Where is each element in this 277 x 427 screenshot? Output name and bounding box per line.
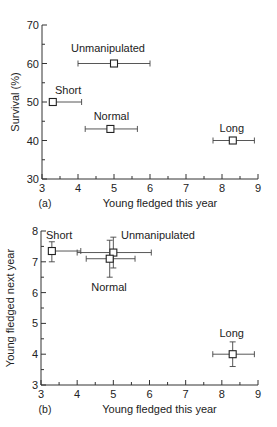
y-axis-title: Survival (%) bbox=[9, 72, 21, 131]
x-tick-label: 4 bbox=[74, 388, 80, 400]
y-tick-label: 3 bbox=[32, 379, 38, 391]
x-tick-label: 5 bbox=[110, 388, 116, 400]
square-marker-icon bbox=[49, 99, 56, 106]
y-tick-label: 8 bbox=[32, 225, 38, 237]
y-tick-label: 60 bbox=[27, 58, 39, 70]
chart-survival: 34567893040506070Young fledged this year… bbox=[0, 0, 277, 210]
x-tick-label: 3 bbox=[38, 388, 44, 400]
x-tick-label: 6 bbox=[146, 388, 152, 400]
y-tick-label: 70 bbox=[27, 19, 39, 31]
data-point-short: Short bbox=[46, 229, 81, 262]
x-tick-label: 7 bbox=[183, 182, 189, 194]
x-axis-title: Young fledged this year bbox=[102, 403, 217, 415]
square-marker-icon bbox=[111, 60, 118, 67]
y-tick-label: 40 bbox=[27, 135, 39, 147]
square-marker-icon bbox=[229, 351, 236, 358]
x-tick-label: 9 bbox=[255, 182, 261, 194]
data-point-long: Long bbox=[213, 327, 255, 367]
x-tick-label: 4 bbox=[75, 182, 81, 194]
data-point-unmanipulated: Unmanipulated bbox=[71, 42, 150, 68]
point-label: Short bbox=[55, 84, 81, 96]
point-label: Long bbox=[220, 122, 244, 134]
data-point-long: Long bbox=[213, 122, 254, 145]
square-marker-icon bbox=[48, 248, 55, 255]
x-tick-label: 8 bbox=[219, 388, 225, 400]
square-marker-icon bbox=[229, 137, 236, 144]
figure: 34567893040506070Young fledged this year… bbox=[0, 0, 277, 427]
x-tick-label: 5 bbox=[111, 182, 117, 194]
y-tick-label: 4 bbox=[32, 348, 38, 360]
point-label: Normal bbox=[91, 281, 126, 293]
point-label: Unmanipulated bbox=[71, 42, 145, 54]
square-marker-icon bbox=[107, 125, 114, 132]
y-tick-label: 5 bbox=[32, 317, 38, 329]
x-tick-label: 7 bbox=[183, 388, 189, 400]
y-tick-label: 30 bbox=[27, 173, 39, 185]
point-label: Normal bbox=[94, 110, 129, 122]
square-marker-icon bbox=[106, 255, 113, 262]
data-point-short: Short bbox=[49, 84, 81, 106]
y-tick-label: 6 bbox=[32, 287, 38, 299]
panel-label: (b) bbox=[39, 403, 52, 415]
data-point-unmanipulated: Unmanipulated bbox=[77, 229, 195, 268]
x-tick-label: 8 bbox=[219, 182, 225, 194]
point-label: Short bbox=[46, 229, 72, 241]
data-point-normal: Normal bbox=[86, 240, 135, 293]
point-label: Long bbox=[219, 327, 243, 339]
y-tick-label: 50 bbox=[27, 96, 39, 108]
x-tick-label: 3 bbox=[39, 182, 45, 194]
point-label: Unmanipulated bbox=[121, 229, 195, 241]
x-tick-label: 6 bbox=[147, 182, 153, 194]
panel-label: (a) bbox=[39, 197, 52, 209]
y-axis-title: Young fledged next year bbox=[4, 249, 16, 368]
y-tick-label: 7 bbox=[32, 256, 38, 268]
x-tick-label: 9 bbox=[255, 388, 261, 400]
chart-young-next-year: 3456789345678Young fledged this year(b)Y… bbox=[0, 210, 277, 427]
data-point-normal: Normal bbox=[85, 110, 137, 133]
x-axis-title: Young fledged this year bbox=[103, 197, 218, 209]
